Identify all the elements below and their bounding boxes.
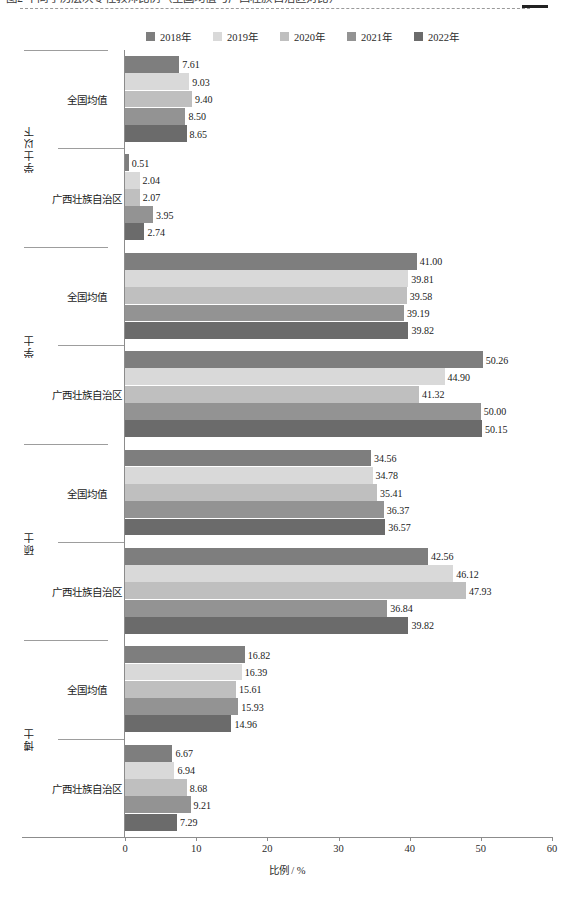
legend-item[interactable]: 2018年 — [146, 29, 191, 44]
bar[interactable] — [125, 467, 373, 484]
x-tick-mark — [125, 837, 126, 841]
category-label: 广西壮族自治区 — [52, 191, 122, 206]
bar-value-label: 15.93 — [241, 701, 264, 712]
x-tick-mark — [339, 837, 340, 841]
group-level-label: 博士 — [22, 644, 38, 833]
chart-legend: 2018年2019年2020年2021年2022年 — [124, 28, 544, 44]
x-tick-mark — [552, 837, 553, 841]
bar[interactable] — [125, 582, 466, 599]
bar[interactable] — [125, 420, 482, 437]
bar[interactable] — [125, 664, 242, 681]
bar-value-label: 41.00 — [420, 256, 443, 267]
bar[interactable] — [125, 270, 408, 287]
bar[interactable] — [125, 154, 129, 171]
legend-item[interactable]: 2021年 — [347, 29, 392, 44]
bar[interactable] — [125, 698, 238, 715]
bar[interactable] — [125, 484, 377, 501]
bar-value-label: 2.74 — [147, 226, 165, 237]
bar[interactable] — [125, 368, 445, 385]
bar-value-label: 2.04 — [143, 175, 161, 186]
bar[interactable] — [125, 125, 187, 142]
truncated-caption-text: 图2 不同学历层次专任教师比例（全国均值与广西壮族自治区对比） — [6, 0, 340, 5]
bar-value-label: 46.12 — [456, 568, 479, 579]
category-separator — [58, 345, 124, 346]
bar-value-label: 50.15 — [485, 423, 508, 434]
bar[interactable] — [125, 386, 419, 403]
bar-value-label: 3.95 — [156, 209, 174, 220]
bar[interactable] — [125, 108, 185, 125]
category-label: 全国均值 — [52, 682, 122, 697]
bar-value-label: 44.90 — [448, 371, 471, 382]
legend-label: 2021年 — [361, 29, 392, 44]
legend-item[interactable]: 2019年 — [213, 29, 258, 44]
bar-value-label: 39.81 — [411, 273, 434, 284]
bar[interactable] — [125, 189, 140, 206]
bar[interactable] — [125, 796, 191, 813]
bar[interactable] — [125, 519, 385, 536]
bar[interactable] — [125, 762, 174, 779]
bar-value-label: 47.93 — [469, 585, 492, 596]
category-label: 全国均值 — [52, 289, 122, 304]
bar-value-label: 6.67 — [175, 748, 193, 759]
x-tick-mark — [196, 837, 197, 841]
bar-value-label: 2.07 — [143, 192, 161, 203]
bar-value-label: 0.51 — [132, 157, 150, 168]
bar[interactable] — [125, 745, 172, 762]
bar-value-label: 9.21 — [194, 799, 212, 810]
truncated-caption-strip: 图2 不同学历层次专任教师比例（全国均值与广西壮族自治区对比） — [0, 0, 566, 12]
plot-area: 7.619.039.408.508.650.512.042.073.952.74… — [22, 50, 552, 855]
bar[interactable] — [125, 305, 404, 322]
x-axis-title: 比例 / % — [22, 862, 552, 877]
bar[interactable] — [125, 56, 179, 73]
legend-swatch-icon — [146, 32, 155, 41]
bar-value-label: 8.50 — [188, 111, 206, 122]
group-separator — [24, 444, 108, 445]
legend-label: 2019年 — [227, 29, 258, 44]
bar[interactable] — [125, 172, 140, 189]
legend-item[interactable]: 2022年 — [414, 29, 459, 44]
bar[interactable] — [125, 600, 387, 617]
bar-value-label: 39.58 — [410, 290, 433, 301]
bar[interactable] — [125, 450, 371, 467]
bar-value-label: 9.40 — [195, 94, 213, 105]
bar[interactable] — [125, 73, 189, 90]
bar[interactable] — [125, 253, 417, 270]
bar-value-label: 39.82 — [411, 325, 434, 336]
group-separator — [24, 247, 108, 248]
bar[interactable] — [125, 814, 177, 831]
group-separator — [24, 640, 108, 641]
x-tick-mark — [267, 837, 268, 841]
x-tick-label: 10 — [191, 843, 202, 854]
bar[interactable] — [125, 681, 236, 698]
x-tick-label: 40 — [404, 843, 415, 854]
bar[interactable] — [125, 91, 192, 108]
bar[interactable] — [125, 287, 407, 304]
bar-value-label: 7.29 — [180, 817, 198, 828]
bar-value-label: 8.68 — [190, 782, 208, 793]
bar[interactable] — [125, 715, 231, 732]
bar[interactable] — [125, 565, 453, 582]
x-tick-label: 0 — [122, 843, 127, 854]
bar-value-label: 36.84 — [390, 603, 413, 614]
bar[interactable] — [125, 206, 153, 223]
bar[interactable] — [125, 501, 384, 518]
bar[interactable] — [125, 779, 187, 796]
x-tick-mark — [410, 837, 411, 841]
bar-value-label: 16.39 — [245, 667, 268, 678]
x-axis-line — [22, 837, 552, 838]
bar[interactable] — [125, 351, 483, 368]
category-label: 广西壮族自治区 — [52, 584, 122, 599]
bar[interactable] — [125, 403, 481, 420]
bar[interactable] — [125, 223, 144, 240]
legend-item[interactable]: 2020年 — [280, 29, 325, 44]
category-separator — [58, 739, 124, 740]
x-tick-label: 50 — [476, 843, 487, 854]
bar-value-label: 42.56 — [431, 551, 454, 562]
bar-value-label: 15.61 — [239, 684, 262, 695]
bar[interactable] — [125, 646, 245, 663]
x-tick-mark — [481, 837, 482, 841]
bar[interactable] — [125, 322, 408, 339]
bar[interactable] — [125, 548, 428, 565]
bar[interactable] — [125, 617, 408, 634]
group-level-label: 硕士 — [22, 448, 38, 637]
